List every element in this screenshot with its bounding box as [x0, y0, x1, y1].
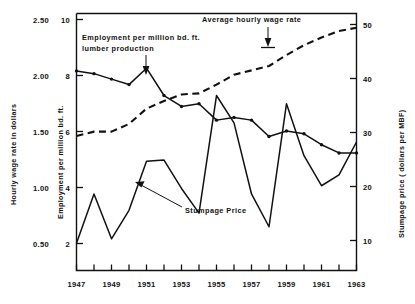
- data-point-employment: [355, 151, 358, 154]
- wage-arrow-icon: [265, 38, 272, 47]
- tick-wage-150: 1.50: [33, 128, 49, 137]
- series-line-stumpage-price: [77, 96, 357, 244]
- employment-annotation: Employment per million bd. ft. lumber pr…: [82, 33, 200, 75]
- data-point-employment: [162, 94, 165, 97]
- tick-employment-10: 10: [61, 16, 70, 25]
- data-point-employment: [127, 83, 130, 86]
- tick-wage-100: 1.00: [33, 184, 49, 193]
- tick-employment-2: 2: [65, 240, 70, 249]
- data-point-employment: [232, 116, 235, 119]
- year-tick-label: 1959: [277, 280, 295, 289]
- svg-text:Employment per million bd. ft.: Employment per million bd. ft.: [56, 105, 65, 219]
- data-point-employment: [215, 118, 218, 121]
- year-tick-label: 1955: [207, 280, 226, 289]
- year-tick-label: 1947: [67, 280, 85, 289]
- year-tick-label: 1949: [102, 280, 120, 289]
- data-point-employment: [250, 118, 253, 121]
- axis-stumpage-ticklabels: 50 40 30 20 10: [363, 21, 372, 246]
- data-point-employment: [110, 77, 113, 80]
- tick-stumpage-50: 50: [363, 21, 372, 30]
- year-tick-label: 1963: [347, 280, 365, 289]
- stumpage-annotation-line1: Stumpage Price: [185, 206, 246, 215]
- data-point-employment: [267, 135, 270, 138]
- axis-wage-ticklabels: 2.50 2.00 1.50 1.00 0.50: [33, 16, 49, 249]
- employment-annotation-line2: lumber production: [82, 44, 154, 53]
- tick-employment-6: 6: [65, 128, 70, 137]
- data-point-employment: [197, 102, 200, 105]
- tick-employment-4: 4: [65, 184, 70, 193]
- axis-title-employment: Employment per million bd. ft.: [56, 105, 65, 219]
- axis-title-stumpage: Stumpage price ( dollars per MBF): [397, 109, 406, 238]
- chart-figure: 10 8 6 4 2 2.50 2.00 1.50 1.00 0.50 50 4…: [0, 0, 415, 304]
- tick-stumpage-40: 40: [363, 75, 372, 84]
- tick-employment-8: 8: [65, 72, 70, 81]
- year-tick-label: 1951: [137, 280, 156, 289]
- chart-svg: 10 8 6 4 2 2.50 2.00 1.50 1.00 0.50 50 4…: [0, 0, 415, 304]
- axis-year-ticklabels: 194719491951195319551957195919611963: [67, 280, 365, 289]
- data-point-employment: [75, 69, 78, 72]
- wage-annotation-line1: Average hourly wage rate: [202, 15, 301, 24]
- axis-stumpage-ticks: [350, 25, 357, 241]
- tick-stumpage-10: 10: [363, 237, 372, 246]
- data-point-employment: [285, 129, 288, 132]
- data-point-employment: [302, 132, 305, 135]
- stumpage-annotation: Stumpage Price: [135, 181, 246, 215]
- axis-title-wage: Hourly wage rate in dollars: [9, 104, 18, 205]
- year-tick-label: 1953: [172, 280, 190, 289]
- wage-annotation: Average hourly wage rate: [202, 15, 301, 48]
- data-point-employment: [92, 72, 95, 75]
- year-tick-label: 1961: [312, 280, 331, 289]
- tick-stumpage-30: 30: [363, 129, 372, 138]
- svg-text:Stumpage price ( dollars per M: Stumpage price ( dollars per MBF): [397, 109, 406, 238]
- tick-stumpage-20: 20: [363, 183, 372, 192]
- series-line-employment: [77, 68, 357, 153]
- svg-text:Hourly wage rate in dollars: Hourly wage rate in dollars: [9, 104, 18, 205]
- employment-annotation-line1: Employment per million bd. ft.: [82, 33, 200, 42]
- tick-wage-050: 0.50: [33, 240, 49, 249]
- axis-employment-ticks: [77, 20, 84, 244]
- axis-year-ticks: [77, 265, 357, 271]
- data-point-employment: [337, 151, 340, 154]
- tick-wage-200: 2.00: [33, 72, 49, 81]
- year-tick-label: 1957: [242, 280, 260, 289]
- data-point-employment: [180, 105, 183, 108]
- tick-wage-250: 2.50: [33, 16, 49, 25]
- data-point-employment: [320, 143, 323, 146]
